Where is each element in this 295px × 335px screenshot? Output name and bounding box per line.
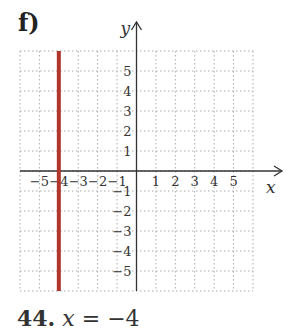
y-tick-label: −1 [112, 184, 131, 199]
y-tick-label: 2 [123, 124, 131, 139]
problem-statement: 44. x = −4 [17, 305, 140, 331]
x-tick-label: 2 [171, 174, 179, 189]
x-tick-label: 4 [210, 174, 218, 189]
x-tick-label: −3 [69, 174, 88, 189]
x-tick-label: −5 [30, 174, 49, 189]
problem-number: 44. [17, 305, 55, 331]
y-tick-label: −4 [112, 244, 131, 259]
y-tick-label: 1 [123, 144, 131, 159]
y-tick-label: 5 [123, 64, 131, 79]
y-tick-label: 4 [123, 84, 131, 99]
y-axis-label: y [120, 18, 131, 38]
x-tick-label: 5 [229, 174, 237, 189]
x-tick-label: −2 [88, 174, 107, 189]
y-tick-label: 3 [123, 104, 131, 119]
y-tick-label: −3 [112, 224, 131, 239]
problem-value: −4 [107, 306, 139, 331]
y-tick-label: −5 [112, 264, 131, 279]
x-tick-label: 3 [191, 174, 199, 189]
y-tick-label: −2 [112, 204, 131, 219]
coordinate-graph: xy−5−4−3−2−11234554321−1−2−3−4−5 [0, 0, 295, 300]
problem-equals: = [75, 306, 107, 331]
x-tick-label: 1 [152, 174, 160, 189]
x-axis-label: x [266, 177, 276, 197]
problem-variable: x [62, 306, 74, 331]
